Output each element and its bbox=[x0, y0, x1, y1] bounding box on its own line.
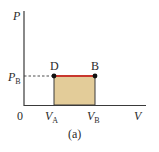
origin-label: 0 bbox=[17, 109, 23, 123]
pv-diagram: D B P V 0 PB VA VB (a) bbox=[0, 0, 159, 152]
point-d bbox=[52, 74, 57, 79]
x-axis-label: V bbox=[134, 109, 143, 123]
vb-tick-label: VB bbox=[87, 109, 100, 125]
figure-caption: (a) bbox=[68, 127, 81, 141]
point-b-label: B bbox=[91, 59, 99, 73]
va-tick-label: VA bbox=[45, 109, 58, 125]
pb-tick-label: PB bbox=[7, 70, 21, 86]
point-b bbox=[93, 74, 98, 79]
y-axis-label: P bbox=[12, 9, 21, 23]
work-area bbox=[54, 76, 95, 105]
point-d-label: D bbox=[50, 59, 59, 73]
